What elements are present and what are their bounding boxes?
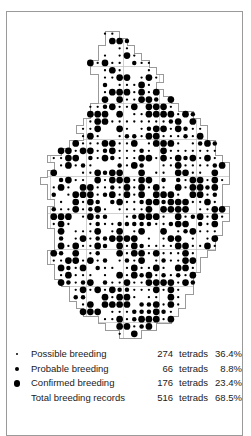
tetrad-dot-probable (110, 185, 115, 190)
legend-row: Probable breeding 66 tetrads 8.8% (7, 362, 242, 377)
tetrad-dot-confirmed (131, 272, 138, 279)
tetrad-dot-confirmed (102, 140, 109, 147)
tetrad-dot-confirmed (219, 206, 226, 213)
tetrad-dot-confirmed (102, 96, 109, 103)
tetrad-dot-confirmed (146, 155, 153, 162)
tetrad-dot-possible (67, 223, 69, 225)
tetrad-dot-confirmed (197, 191, 204, 198)
tetrad-dot-confirmed (116, 96, 123, 103)
tetrad-dot-confirmed (80, 287, 87, 294)
legend-row: Possible breeding 274 tetrads 36.4% (7, 347, 242, 362)
tetrad-dot-possible (82, 230, 84, 232)
tetrad-dot-possible (89, 128, 91, 130)
tetrad-dot-possible (148, 186, 150, 188)
tetrad-dot-confirmed (168, 111, 175, 118)
tetrad-dot-confirmed (72, 155, 79, 162)
tetrad-dot-confirmed (124, 74, 131, 81)
tetrad-dot-confirmed (80, 235, 87, 242)
tetrad-dot-confirmed (168, 206, 175, 213)
tetrad-dot-possible (184, 216, 186, 218)
map-canvas (7, 12, 242, 342)
tetrad-dot-confirmed (116, 316, 123, 323)
tetrad-dot-possible (133, 120, 135, 122)
tetrad-dot-probable (66, 266, 71, 271)
tetrad-dot-possible (104, 76, 106, 78)
tetrad-dot-confirmed (197, 184, 204, 191)
tetrad-dot-possible (97, 259, 99, 261)
tetrad-dot-possible (104, 186, 106, 188)
tetrad-dot-confirmed (80, 265, 87, 272)
tetrad-dot-possible (118, 47, 120, 49)
tetrad-dot-possible (162, 186, 164, 188)
tetrad-dot-possible (118, 157, 120, 159)
tetrad-dot-confirmed (160, 140, 167, 147)
tetrad-dot-possible (89, 164, 91, 166)
tetrad-dot-possible (192, 237, 194, 239)
tetrad-dot-probable (213, 141, 218, 146)
tetrad-dot-probable (132, 134, 137, 139)
tetrad-dot-possible (192, 135, 194, 137)
tetrad-dot-confirmed (168, 235, 175, 242)
tetrad-dot-confirmed (102, 294, 109, 301)
tetrad-dot-possible (199, 230, 201, 232)
tetrad-dot-probable (161, 200, 166, 205)
tetrad-dot-possible (89, 245, 91, 247)
tetrad-dot-confirmed (87, 257, 94, 264)
tetrad-dot-possible (155, 259, 157, 261)
tetrad-dot-possible (82, 303, 84, 305)
tetrad-dot-confirmed (131, 330, 138, 337)
tetrad-dot-confirmed (116, 228, 123, 235)
tetrad-dot-possible (199, 164, 201, 166)
tetrad-dot-confirmed (168, 191, 175, 198)
tetrad-dot-probable (183, 156, 188, 161)
tetrad-dot-possible (67, 194, 69, 196)
tetrad-dot-possible (155, 157, 157, 159)
tetrad-dot-possible (89, 252, 91, 254)
tetrad-dot-confirmed (124, 235, 131, 242)
probable-breeding-symbol-icon (7, 362, 27, 377)
tetrad-dot-confirmed (204, 243, 211, 250)
tetrad-dot-confirmed (211, 221, 218, 228)
tetrad-dot-possible (126, 274, 128, 276)
tetrad-dot-confirmed (138, 250, 145, 257)
tetrad-dot-confirmed (204, 155, 211, 162)
tetrad-dot-probable (147, 310, 152, 315)
tetrad-dot-possible (82, 245, 84, 247)
tetrad-dot-confirmed (131, 235, 138, 242)
tetrad-dot-confirmed (175, 206, 182, 213)
tetrad-dot-possible (148, 237, 150, 239)
tetrad-dot-confirmed (94, 228, 101, 235)
tetrad-dot-possible (104, 33, 106, 35)
tetrad-dot-possible (126, 164, 128, 166)
legend-count: 66 (147, 362, 173, 377)
tetrad-dot-possible (155, 223, 157, 225)
tetrad-dot-possible (89, 142, 91, 144)
legend-unit: tetrads (179, 362, 208, 377)
tetrad-dot-possible (82, 135, 84, 137)
tetrad-dot-confirmed (146, 272, 153, 279)
tetrad-dot-confirmed (211, 235, 218, 242)
tetrad-dot-possible (82, 142, 84, 144)
tetrad-dot-confirmed (204, 199, 211, 206)
tetrad-dot-confirmed (116, 74, 123, 81)
tetrad-dot-confirmed (153, 316, 160, 323)
tetrad-dot-possible (89, 237, 91, 239)
tetrad-dot-possible (75, 289, 77, 291)
tetrad-dot-possible (133, 113, 135, 115)
tetrad-dot-confirmed (124, 323, 131, 330)
confirmed-breeding-symbol-icon (7, 376, 27, 391)
tetrad-dot-confirmed (211, 177, 218, 184)
tetrad-dot-confirmed (65, 162, 72, 169)
tetrad-dot-possible (82, 201, 84, 203)
tetrad-dot-possible (89, 289, 91, 291)
tetrad-dot-possible (104, 274, 106, 276)
tetrad-dot-possible (177, 142, 179, 144)
legend-percent: 23.4% (210, 376, 242, 391)
tetrad-dot-possible (89, 106, 91, 108)
tetrad-dots (50, 33, 225, 338)
tetrad-dot-confirmed (197, 177, 204, 184)
tetrad-dot-possible (60, 164, 62, 166)
legend-row-total: Total breeding records 516 tetrads 68.5% (7, 391, 242, 406)
tetrad-dot-possible (170, 150, 172, 152)
